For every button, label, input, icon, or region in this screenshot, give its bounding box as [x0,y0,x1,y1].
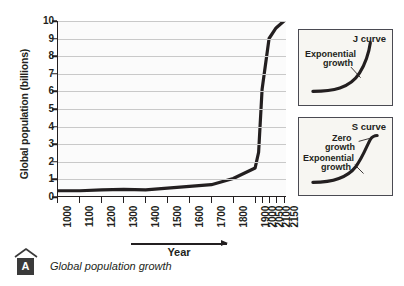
y-tick-mark [52,91,57,93]
y-tick-mark [52,55,57,57]
caption-badge: A [17,258,34,275]
gridline [58,162,286,163]
plot-area [57,21,286,197]
inset-panel-s-curve: S curve Zero growth Exponential growth [298,117,393,196]
y-tick-mark [52,179,57,181]
gridline [58,91,286,92]
x-tick-label: 1300 [128,206,139,227]
x-tick-label: 1400 [150,206,161,227]
roof-icon [14,248,38,258]
y-tick-mark [52,196,57,198]
x-tick-mark [211,197,212,203]
inset-note-s-3: growth [321,163,351,173]
gridline [58,74,286,75]
x-tick-mark [167,197,168,203]
inset-panel-j-curve: J curve Exponential growth [298,29,393,106]
gridline [58,109,286,110]
y-tick-mark [52,20,57,22]
x-tick-mark [233,197,234,203]
x-tick-mark [79,197,80,203]
inset-note-s-1: growth [325,143,355,153]
gridline [58,56,286,57]
x-tick-mark [57,197,58,203]
gridline [58,39,286,40]
y-tick-mark [52,73,57,75]
y-tick-mark [52,126,57,128]
x-tick-label: 2150 [289,206,300,227]
figure-global-population-growth: Global population (billions) 01234567891… [0,0,404,286]
x-tick-mark [189,197,190,203]
y-tick-mark [52,108,57,110]
x-tick-label: 1600 [194,206,205,227]
x-tick-label: 1500 [172,206,183,227]
x-tick-label: 1000 [62,206,73,227]
x-tick-mark [255,197,256,203]
x-tick-mark [262,197,263,203]
y-tick-mark [52,143,57,145]
x-tick-mark [101,197,102,203]
y-tick-mark [52,161,57,163]
x-tick-mark [269,197,270,203]
gridline [58,179,286,180]
gridline [58,144,286,145]
x-tick-label: 1200 [106,206,117,227]
y-tick-mark [52,38,57,40]
gridline [58,127,286,128]
y-axis-title: Global population (billions) [18,24,30,204]
x-tick-mark [145,197,146,203]
x-axis-title: Year [131,246,227,258]
x-tick-mark [276,197,277,203]
x-tick-label: 1700 [216,206,227,227]
x-tick-mark [123,197,124,203]
caption-label: Global population growth [50,260,172,272]
x-tick-label: 1100 [84,206,95,227]
gridline [58,21,286,22]
inset-note-j-1: growth [323,59,353,69]
x-tick-mark [284,197,285,203]
arrow-line-icon [131,243,227,245]
x-tick-label: 1800 [238,206,249,227]
arrow-head-icon [221,240,228,246]
